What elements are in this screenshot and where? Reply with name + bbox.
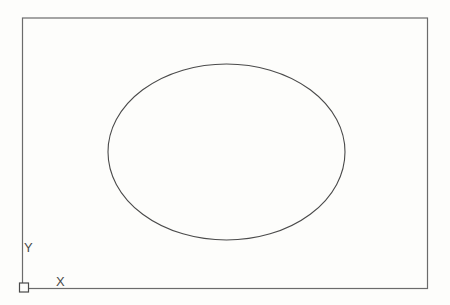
ucs-x-axis-label: X: [56, 274, 65, 289]
drawing-canvas: Y X: [0, 0, 450, 305]
cad-drawing: Y X: [0, 0, 450, 305]
drawing-border: [23, 18, 428, 289]
ucs-icon: Y X: [20, 240, 66, 292]
ellipse-shape: [108, 64, 345, 240]
ucs-y-axis-label: Y: [24, 240, 33, 255]
ucs-origin-box-icon: [20, 283, 29, 292]
